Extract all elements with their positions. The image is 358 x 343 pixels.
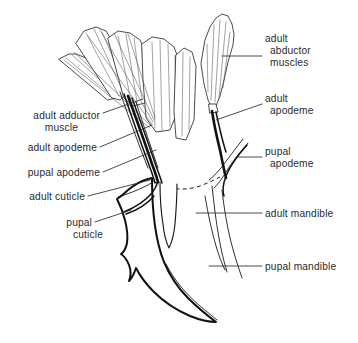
label-adult-abductor-muscles-line2: abductor	[270, 45, 311, 56]
pupal-mandible-line-3	[205, 196, 225, 270]
label-adult-mandible: adult mandible	[265, 208, 334, 219]
label-adult-cuticle: adult cuticle	[29, 191, 85, 202]
pupal-mandible-group	[205, 186, 242, 278]
label-pupal-mandible: pupal mandible	[265, 261, 336, 272]
adult-adductor-muscle-group	[59, 27, 196, 140]
label-pupal-cuticle-line1: pupal	[66, 217, 92, 228]
label-adult-apodeme-right-line1: adult	[265, 93, 288, 104]
anatomical-diagram-figure: adult abductor muscles adult apodeme pup…	[0, 0, 358, 343]
label-pupal-apodeme-right-line2: apodeme	[270, 158, 314, 169]
adult-abductor-muscles-group	[201, 14, 234, 113]
label-adult-abductor-muscles-line3: muscles	[270, 57, 308, 68]
label-pupal-apodeme-right-line1: pupal	[265, 146, 291, 157]
adult-mandible-notch	[160, 182, 177, 248]
adductor-muscle-lobe-5	[174, 48, 196, 140]
label-pupal-cuticle-line2: cuticle	[73, 229, 103, 240]
leader-adult-apodeme-right	[216, 104, 262, 120]
label-adult-adductor-muscle-line2: muscle	[45, 122, 78, 133]
pupal-apodeme-right-group	[209, 139, 248, 196]
label-adult-apodeme-right-line2: apodeme	[270, 105, 314, 116]
label-adult-abductor-muscles-line1: adult	[265, 33, 288, 44]
adult-apodeme-right-group	[212, 111, 226, 178]
label-adult-apodeme-left: adult apodeme	[28, 142, 98, 153]
adult-mandible-group	[117, 178, 217, 322]
pupal-mandible-line-1	[212, 186, 227, 272]
label-adult-adductor-muscle-line1: adult adductor	[33, 110, 100, 121]
label-pupal-apodeme-left: pupal apodeme	[28, 167, 100, 178]
